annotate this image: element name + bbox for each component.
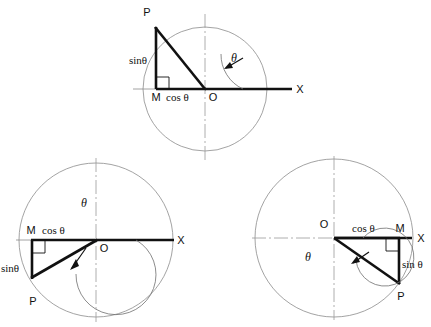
label-point-m-bottom-left: M <box>26 224 35 236</box>
label-cos-bottom-right: cos θ <box>352 222 375 234</box>
label-axis-x-bottom-left: X <box>177 234 185 246</box>
radius-op-bottom-left <box>31 240 97 278</box>
label-sin-bottom-left: sinθ <box>1 262 19 274</box>
label-point-p-top: P <box>143 6 150 18</box>
label-point-m-top: M <box>151 91 160 103</box>
label-point-m-bottom-right: M <box>395 222 404 234</box>
trig-diagram-page: P M O X sinθ cos θ θ <box>0 0 431 327</box>
label-cos-top: cos θ <box>166 91 189 103</box>
label-point-o-bottom-right: O <box>320 218 329 230</box>
label-point-p-bottom-right: P <box>397 290 404 302</box>
right-angle-marker-bottom-right <box>386 238 399 251</box>
label-angle-theta-top: θ <box>231 51 237 65</box>
label-point-o-top: O <box>209 91 218 103</box>
label-point-p-bottom-left: P <box>29 295 36 307</box>
figure-bottom-left: P M O X sinθ cos θ θ <box>1 158 185 322</box>
angle-arc-bottom-left <box>76 240 156 315</box>
label-axis-x-bottom-right: X <box>417 232 425 244</box>
radius-op-top <box>155 27 205 89</box>
label-sin-bottom-right: sin θ <box>402 258 423 270</box>
label-cos-bottom-left: cos θ <box>42 224 65 236</box>
right-angle-marker-bottom-left <box>32 240 45 253</box>
right-angle-marker-top <box>156 77 169 89</box>
label-point-o-bottom-left: O <box>100 242 109 254</box>
label-axis-x-top: X <box>296 83 304 95</box>
figure-top: P M O X sinθ cos θ θ <box>129 6 304 160</box>
figure-bottom-right: P M O X sin θ cos θ θ <box>252 156 425 320</box>
trig-diagram-svg: P M O X sinθ cos θ θ <box>0 0 431 327</box>
label-angle-theta-bottom-left: θ <box>81 196 87 210</box>
radius-op-bottom-right <box>334 238 400 284</box>
angle-arrow-head-bottom-right <box>351 256 360 264</box>
label-sin-top: sinθ <box>129 54 147 66</box>
label-angle-theta-bottom-right: θ <box>305 250 311 264</box>
